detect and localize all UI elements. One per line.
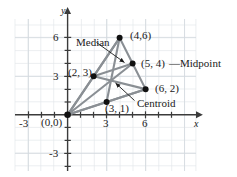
point-label-3-1: (3, 1) bbox=[105, 103, 129, 114]
y-tick-label-neg3: -3 bbox=[49, 148, 58, 159]
centroid-annotation: Centroid bbox=[137, 98, 176, 109]
coordinate-plane-svg bbox=[0, 0, 237, 177]
point-label-4-6: (4,6) bbox=[130, 30, 151, 41]
midpoint-dash: — bbox=[169, 58, 180, 69]
y-tick-label-6: 6 bbox=[53, 32, 59, 43]
y-tick-label-3: 3 bbox=[53, 71, 59, 82]
plot-point-vertex-d bbox=[143, 86, 149, 92]
figure-container: -3 3 6 6 3 -3 y x (0,0) (2, 3) (4,6) (5,… bbox=[0, 0, 237, 177]
plot-point-midpoint bbox=[130, 60, 136, 66]
median-annotation: Median bbox=[76, 37, 110, 48]
y-axis-label: y bbox=[61, 6, 65, 16]
x-tick-label-3: 3 bbox=[103, 118, 109, 129]
x-tick-label-6: 6 bbox=[142, 118, 148, 129]
x-axis-label: x bbox=[194, 119, 198, 129]
point-label-6-2: (6, 2) bbox=[155, 83, 179, 94]
x-tick-label-neg3: -3 bbox=[19, 118, 28, 129]
plot-point-origin bbox=[64, 112, 71, 119]
point-label-5-4: (5, 4) bbox=[141, 58, 165, 69]
plot-point-vertex-c bbox=[117, 35, 123, 41]
midpoint-annotation: Midpoint bbox=[180, 58, 221, 69]
point-label-origin: (0,0) bbox=[41, 117, 62, 128]
point-label-2-3: (2, 3) bbox=[68, 67, 92, 78]
